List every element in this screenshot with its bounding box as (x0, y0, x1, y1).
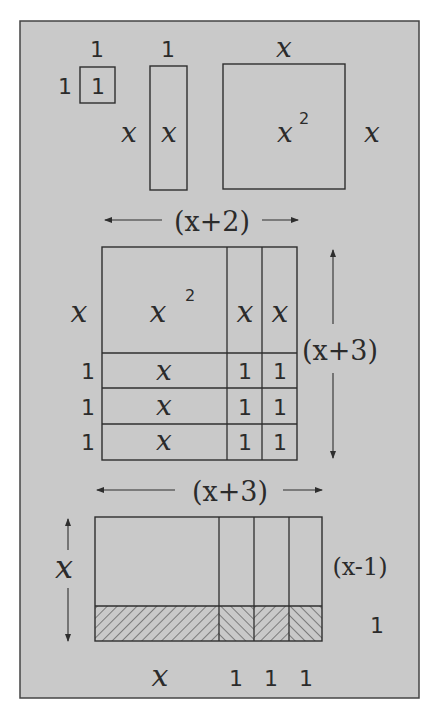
x-strip-top-label: 1 (161, 37, 175, 62)
hatched-unit-1 (219, 606, 254, 641)
algebra-tiles-diagram: 1 1 1 1 x x x x 2 x (x+2) x 1 1 1 x 2 (0, 0, 436, 713)
bottom-label-0: x (152, 658, 169, 693)
cell-3-2: 1 (273, 430, 287, 455)
hatched-x-region (95, 606, 219, 641)
right-label-lower: 1 (370, 613, 384, 638)
unit-square-top-label: 1 (90, 37, 104, 62)
cell-3-1: 1 (238, 430, 252, 455)
cell-2-2: 1 (273, 395, 287, 420)
row-label-0: x (71, 294, 88, 329)
x-square-inner-label: x (277, 116, 293, 149)
width-label: (x+2) (174, 206, 250, 237)
x-square-inner-exponent: 2 (299, 109, 309, 128)
bottom-label-2: 1 (264, 666, 278, 691)
cell-1-0: x (156, 354, 172, 387)
unit-square-inner-label: 1 (91, 74, 105, 99)
cell-3-0: x (156, 424, 172, 457)
x-square-top-label: x (276, 31, 292, 64)
height-label: x (55, 548, 73, 586)
unit-square-left-label: 1 (58, 74, 72, 99)
bottom-label-3: 1 (299, 666, 313, 691)
cell-0-1: x (237, 294, 254, 329)
row-label-3: 1 (81, 430, 95, 455)
cell-x-squared-exponent: 2 (185, 286, 195, 305)
cell-1-2: 1 (273, 359, 287, 384)
cell-2-0: x (156, 389, 172, 422)
right-label-upper: (x-1) (332, 553, 387, 581)
height-label: (x+3) (302, 335, 378, 366)
x-strip-left-label: x (121, 116, 137, 149)
x-strip-inner-label: x (161, 116, 177, 149)
x-square-right-label: x (364, 116, 380, 149)
cell-1-1: 1 (238, 359, 252, 384)
hatched-unit-2 (254, 606, 289, 641)
hatched-unit-3 (289, 606, 322, 641)
row-label-2: 1 (81, 395, 95, 420)
bottom-label-1: 1 (229, 666, 243, 691)
width-label: (x+3) (192, 476, 268, 507)
row-label-1: 1 (81, 359, 95, 384)
cell-2-1: 1 (238, 395, 252, 420)
cell-x-squared-base: x (150, 294, 167, 329)
cell-0-2: x (272, 294, 289, 329)
